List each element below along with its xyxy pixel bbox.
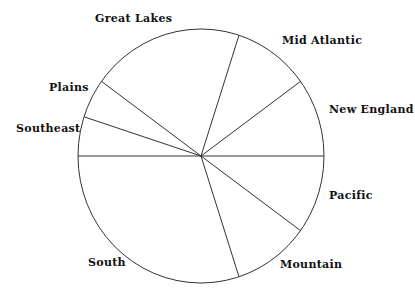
slice-boundary <box>201 156 239 277</box>
pie-slices <box>78 29 324 283</box>
slice-boundary <box>102 81 202 156</box>
label-new-england: New England <box>329 103 414 116</box>
label-plains: Plains <box>49 81 89 94</box>
slice-boundary <box>201 81 301 156</box>
label-great-lakes: Great Lakes <box>95 12 172 25</box>
label-southeast: Southeast <box>16 122 80 135</box>
slice-boundary <box>201 156 301 231</box>
label-pacific: Pacific <box>329 189 373 202</box>
label-mountain: Mountain <box>280 258 342 271</box>
slice-boundary <box>201 35 239 156</box>
label-mid-atlantic: Mid Atlantic <box>282 34 362 47</box>
slice-boundary <box>84 117 201 156</box>
label-south: South <box>88 256 126 269</box>
